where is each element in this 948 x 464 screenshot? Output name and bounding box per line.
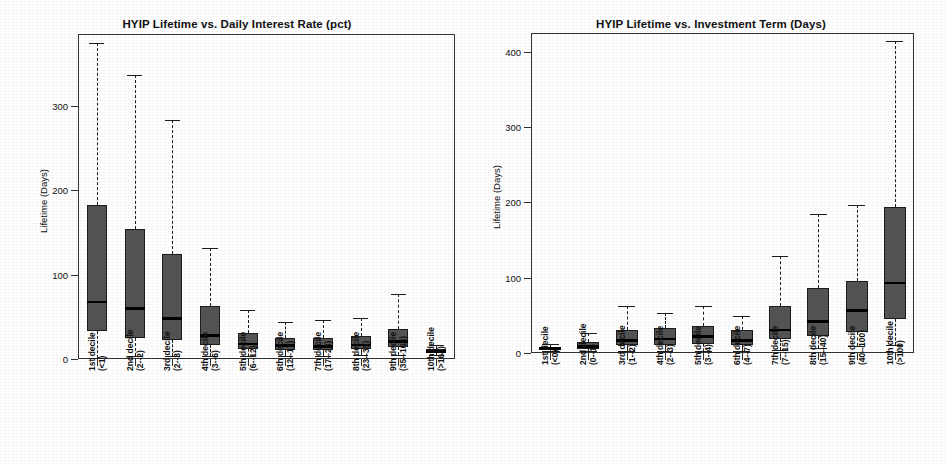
- y-tick-label: 300: [493, 122, 521, 133]
- x-tick-mark: [818, 353, 819, 360]
- x-tick-mark: [398, 359, 399, 366]
- x-tick-mark: [895, 353, 896, 360]
- x-tick-mark: [742, 353, 743, 360]
- x-tick-mark: [550, 353, 551, 360]
- x-tick-mark: [361, 359, 362, 366]
- plot-area: [531, 33, 914, 353]
- x-tick-mark: [285, 359, 286, 366]
- y-tick-label: 0: [40, 354, 68, 365]
- x-tick-mark: [97, 359, 98, 366]
- y-tick-mark: [524, 52, 531, 53]
- x-tick-mark: [627, 353, 628, 360]
- x-tick-mark: [323, 359, 324, 366]
- y-axis-label: Lifetime (Days): [38, 169, 49, 233]
- y-tick-mark: [524, 202, 531, 203]
- plot-area: [78, 34, 455, 359]
- x-tick-mark: [172, 359, 173, 366]
- y-tick-mark: [524, 353, 531, 354]
- x-tick-mark: [703, 353, 704, 360]
- x-tick-mark: [665, 353, 666, 360]
- x-tick-mark: [436, 359, 437, 366]
- y-tick-mark: [71, 359, 78, 360]
- y-tick-mark: [71, 106, 78, 107]
- y-tick-label: 400: [493, 46, 521, 57]
- y-tick-label: 0: [493, 348, 521, 359]
- panel-title: HYIP Lifetime vs. Investment Term (Days): [474, 18, 948, 30]
- x-tick-mark: [135, 359, 136, 366]
- x-tick-mark: [780, 353, 781, 360]
- panel-daily-interest-rate: HYIP Lifetime vs. Daily Interest Rate (p…: [0, 0, 474, 464]
- y-tick-label: 100: [40, 269, 68, 280]
- x-tick-mark: [248, 359, 249, 366]
- x-tick-mark: [857, 353, 858, 360]
- y-axis-label: Lifetime (Days): [491, 165, 502, 229]
- x-tick-mark: [210, 359, 211, 366]
- x-tick-mark: [588, 353, 589, 360]
- panel-investment-term: HYIP Lifetime vs. Investment Term (Days)…: [474, 0, 948, 464]
- y-tick-mark: [524, 127, 531, 128]
- y-tick-label: 100: [493, 272, 521, 283]
- panel-title: HYIP Lifetime vs. Daily Interest Rate (p…: [0, 18, 474, 30]
- figure-boxplot-pair: HYIP Lifetime vs. Daily Interest Rate (p…: [0, 0, 948, 464]
- y-tick-mark: [71, 190, 78, 191]
- y-tick-mark: [71, 275, 78, 276]
- y-tick-mark: [524, 278, 531, 279]
- y-tick-label: 300: [40, 100, 68, 111]
